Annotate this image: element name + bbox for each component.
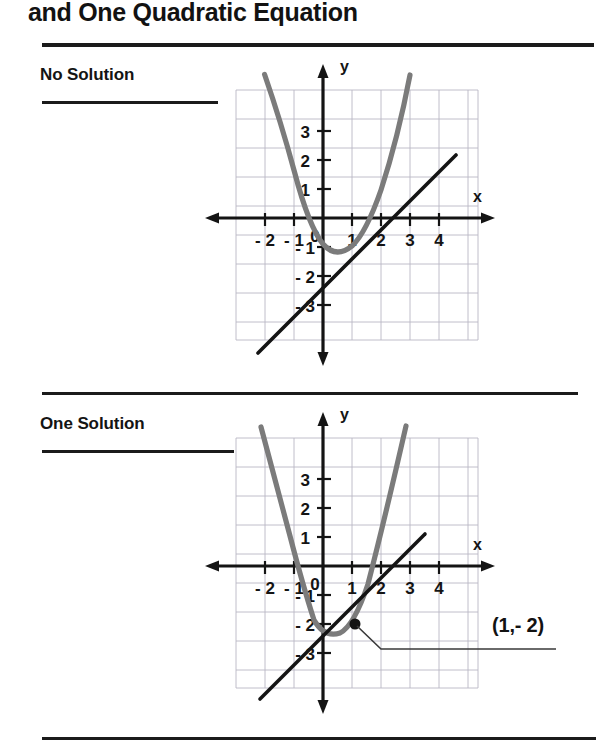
parabola-curve [261, 426, 406, 634]
parabola-curve [265, 75, 410, 253]
linear-curve [260, 534, 425, 699]
graph-no-solution: - 2 - 1 0 1 2 3 4 3 2 1 - 1 - 2 - 3 y x [0, 50, 596, 380]
page-root: and One Quadratic Equation No Solution [0, 0, 596, 749]
grid-lines [236, 90, 478, 340]
y-tick-label: 2 [301, 500, 310, 519]
x-tick-label: 3 [405, 579, 414, 598]
y-axis-label: y [340, 406, 349, 423]
y-axis-label: y [340, 58, 349, 75]
y-tick-label: 3 [301, 471, 310, 490]
x-tick-label: 4 [434, 231, 444, 250]
x-tick-label: 1 [347, 579, 356, 598]
graph-svg-no-solution: - 2 - 1 0 1 2 3 4 3 2 1 - 1 - 2 - 3 y x [0, 50, 596, 380]
y-tick-label: 1 [301, 529, 310, 548]
x-tick-label: 4 [434, 579, 444, 598]
axes [205, 412, 495, 714]
x-tick-label: - 2 [255, 231, 275, 250]
title-divider-rule [42, 43, 594, 47]
x-tick-label: - 2 [255, 579, 275, 598]
x-axis-label: x [473, 536, 482, 553]
intersection-point-label: (1,- 2) [492, 614, 544, 637]
x-axis-label: x [473, 188, 482, 205]
y-tick-label: - 2 [295, 268, 315, 287]
axes [205, 64, 495, 366]
y-tick-label: 3 [301, 123, 310, 142]
graph-one-solution: - 2 - 1 0 1 2 3 4 3 2 1 - 1 - 2 - 3 y x [0, 398, 596, 728]
page-bottom-rule [42, 737, 596, 740]
y-tick-label: - 1 [295, 239, 315, 258]
x-tick-labels: - 2 - 1 0 1 2 3 4 [255, 575, 444, 598]
linear-curve [258, 155, 456, 353]
section-divider-rule [42, 392, 578, 395]
y-tick-label: 2 [301, 152, 310, 171]
graph-svg-one-solution: - 2 - 1 0 1 2 3 4 3 2 1 - 1 - 2 - 3 y x [0, 398, 596, 728]
page-title: and One Quadratic Equation [28, 0, 358, 27]
x-tick-label: 3 [405, 231, 414, 250]
